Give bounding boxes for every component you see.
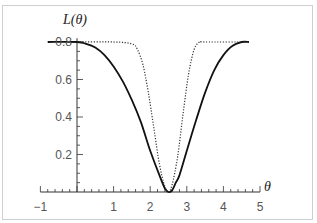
y-tick-label: 0.2 [55,148,72,162]
series-dotted-line [77,41,249,192]
x-tick-label: 4 [220,200,227,214]
x-tick-label: 2 [147,200,154,214]
y-tick-label: 0.4 [55,110,72,124]
axes [40,38,260,192]
y-axis-label: L(θ) [62,12,87,28]
y-tick-label: 0.6 [55,73,72,87]
likelihood-chart: −1123450.20.40.60.8L(θ)θ [0,0,317,223]
x-axis-label: θ [264,179,271,194]
x-tick-label: 5 [257,200,264,214]
x-tick-label: −1 [34,200,48,214]
y-tick-label: 0.8 [55,35,72,49]
x-tick-label: 1 [110,200,117,214]
x-tick-label: 3 [183,200,190,214]
